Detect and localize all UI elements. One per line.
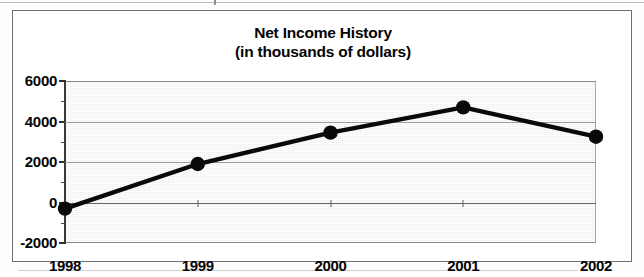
series-net-income (65, 81, 596, 243)
y-axis-label-6000: 6000 (25, 72, 57, 89)
data-point-2002 (589, 129, 603, 143)
y-axis-label-4000: 4000 (25, 113, 57, 130)
data-point-1999 (191, 157, 205, 171)
scan-artifact-top-line (0, 2, 644, 3)
chart-frame: Net Income History (in thousands of doll… (12, 10, 632, 262)
y-axis-label--2000: -2000 (20, 234, 57, 251)
data-point-1998 (58, 201, 72, 215)
x-axis-label-2001: 2001 (447, 257, 479, 274)
x-axis-label-1998: 1998 (49, 257, 81, 274)
chart-page: Net Income History (in thousands of doll… (0, 0, 644, 277)
scan-artifact-top-mark (214, 0, 216, 5)
chart-subtitle: (in thousands of dollars) (13, 42, 633, 61)
data-point-2001 (456, 100, 470, 114)
y-axis-label-0: 0 (49, 194, 57, 211)
scan-artifact-bottom-line (18, 270, 578, 271)
x-axis-label-2002: 2002 (580, 257, 612, 274)
x-axis-label-1999: 1999 (182, 257, 214, 274)
chart-title-block: Net Income History (in thousands of doll… (13, 23, 633, 61)
chart-title: Net Income History (13, 23, 633, 42)
plot-area: 6000400020000-2000 19981999200020012002 (65, 81, 596, 243)
y-axis-label-2000: 2000 (25, 153, 57, 170)
data-point-2000 (323, 125, 337, 139)
x-axis-label-2000: 2000 (314, 257, 346, 274)
